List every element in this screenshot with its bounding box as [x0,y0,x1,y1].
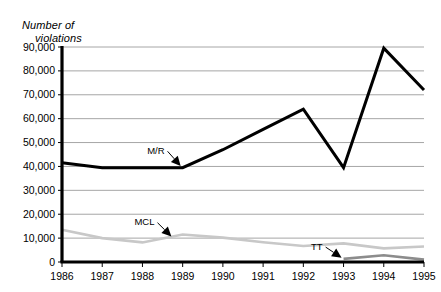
y-tick-label: 20,000 [23,208,55,220]
x-tick-label: 1990 [211,270,235,282]
x-tick-label: 1992 [292,270,316,282]
x-tick-label: 1994 [372,270,396,282]
annotation-arrowhead-icon [331,249,341,258]
x-tick-label: 1991 [251,270,275,282]
series-line-mcl [62,230,424,249]
chart-figure: Number of violations 010,00020,00030,000… [0,0,441,292]
y-tick-label: 0 [49,256,55,268]
x-tick-label: 1989 [171,270,195,282]
y-tick-label: 90,000 [23,41,55,53]
annotation-leader-line [168,151,175,159]
y-tick-label: 30,000 [23,184,55,196]
x-tick-label: 1995 [412,270,436,282]
annotation-leader-line [326,247,334,252]
x-tick-label: 1986 [50,270,74,282]
y-tick-label: 50,000 [23,136,55,148]
x-axis-tick-labels: 1986198719881989199019911992199319941995 [50,270,436,282]
series-annotations-group: M/RMCLTT [134,145,341,258]
series-line-m-r [62,48,424,167]
annotation-leader-line [158,223,165,230]
y-tick-label: 40,000 [23,160,55,172]
gridlines-group [62,47,424,238]
data-series-group [62,48,424,259]
y-axis-tick-labels: 010,00020,00030,00040,00050,00060,00070,… [23,41,55,268]
series-label-mcl: MCL [134,216,154,227]
y-tick-label: 60,000 [23,112,55,124]
series-label-tt: TT [311,241,323,252]
x-tick-label: 1988 [131,270,155,282]
y-tick-label: 70,000 [23,88,55,100]
y-tick-label: 80,000 [23,64,55,76]
y-tick-label: 10,000 [23,232,55,244]
series-label-m-r: M/R [147,145,165,156]
series-line-tt [344,255,424,259]
x-tick-label: 1993 [332,270,356,282]
line-chart-canvas: 010,00020,00030,00040,00050,00060,00070,… [0,0,441,292]
x-tick-label: 1987 [91,270,115,282]
